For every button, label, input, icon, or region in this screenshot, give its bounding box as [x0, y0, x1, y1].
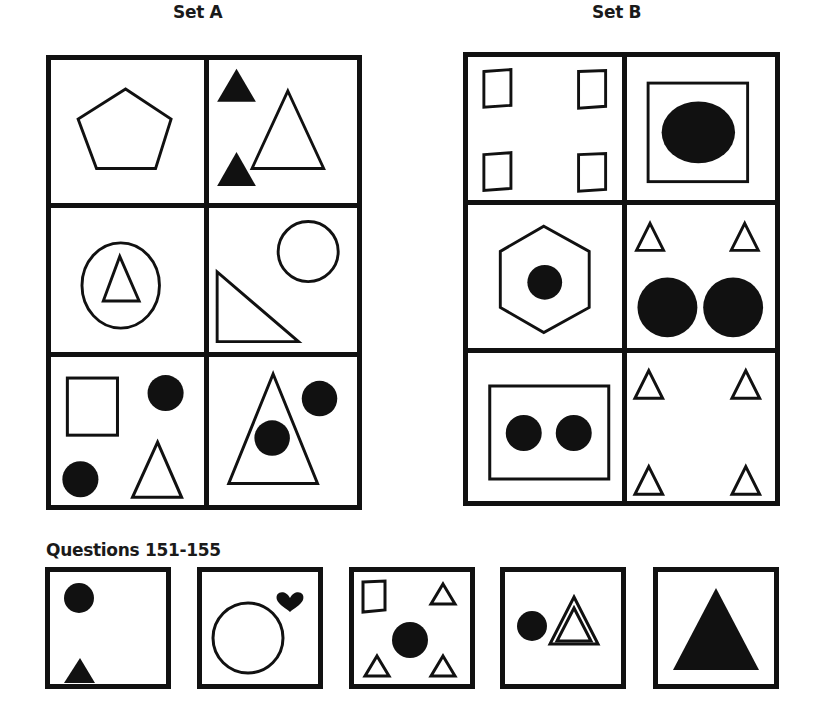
set-b-cell-1 [468, 57, 622, 205]
circle-heart-icon [202, 572, 318, 684]
set-a-cell-6 [204, 357, 357, 505]
set-a-cell-3 [51, 208, 204, 356]
question-153 [349, 567, 475, 689]
mixed-shapes-icon [51, 357, 204, 505]
triangle-with-circles-icon [209, 357, 357, 505]
set-b-cell-6 [622, 353, 776, 501]
set-b-cell-3 [468, 205, 622, 353]
set-a-cell-4 [204, 208, 357, 356]
pentagon-icon [51, 60, 204, 203]
question-152 [197, 567, 323, 689]
set-b-cell-4 [622, 205, 776, 353]
four-triangles-icon [627, 353, 776, 501]
question-151 [45, 567, 171, 689]
set-a-grid [46, 55, 362, 510]
mixed-shapes-icon [354, 572, 470, 684]
circle-double-triangle-icon [505, 572, 621, 684]
set-b-cell-2 [622, 57, 776, 205]
set-b-cell-5 [468, 353, 622, 501]
triangles-and-circles-icon [627, 205, 776, 348]
set-b-grid [463, 52, 780, 506]
set-b-title: Set B [592, 2, 641, 22]
circle-in-hexagon-icon [468, 205, 622, 348]
ellipse-in-square-icon [627, 57, 776, 200]
two-circles-in-rectangle-icon [468, 353, 622, 501]
question-154 [500, 567, 626, 689]
circle-triangle-icon [50, 572, 166, 684]
set-a-title: Set A [173, 2, 222, 22]
set-a-cell-1 [51, 60, 204, 208]
question-155 [653, 567, 779, 689]
set-a-cell-5 [51, 357, 204, 505]
triangle-in-oval-icon [51, 208, 204, 351]
filled-triangle-icon [658, 572, 774, 684]
questions-title: Questions 151-155 [46, 540, 221, 560]
four-squares-icon [468, 57, 622, 200]
set-a-cell-2 [204, 60, 357, 208]
triangles-icon [209, 60, 357, 203]
circle-right-triangle-icon [209, 208, 357, 351]
